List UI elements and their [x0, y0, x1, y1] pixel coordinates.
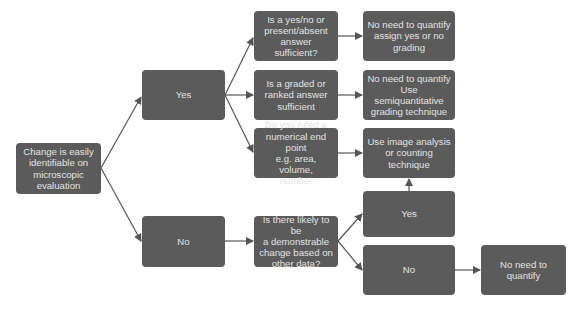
edge-yes-to-q-numerical	[225, 95, 253, 152]
edge-q-likely-to-yes	[338, 214, 362, 241]
node-likely-no-label: No	[403, 264, 415, 275]
node-no-label: No	[177, 236, 189, 247]
node-result-image-analysis-label: Use image analysis or counting technique	[367, 136, 450, 170]
node-question-numerical: Do you need a numerical end point e.g. a…	[254, 128, 338, 178]
node-result-no-quantify: No need to quantify	[481, 245, 566, 295]
edge-start-to-yes	[101, 97, 141, 168]
node-no: No	[142, 216, 225, 267]
node-question-likely-change: Is there likely to be a demonstrable cha…	[254, 216, 338, 267]
node-result-semiquantitative-label: No need to quantify Use semiquantitative…	[367, 73, 451, 118]
flowchart: Change is easily identifiable on microsc…	[0, 0, 577, 311]
node-question-likely-change-label: Is there likely to be a demonstrable cha…	[258, 214, 334, 270]
node-likely-no: No	[363, 245, 455, 295]
node-question-yes-no: Is a yes/no or present/absent answer suf…	[254, 11, 338, 61]
node-start: Change is easily identifiable on microsc…	[16, 143, 101, 194]
edge-q-likely-to-no	[338, 241, 362, 270]
node-question-graded: Is a graded or ranked answer sufficient	[254, 70, 338, 120]
node-result-yes-no-grading-label: No need to quantify assign yes or no gra…	[367, 19, 450, 53]
edge-start-to-no	[101, 168, 141, 241]
node-result-no-quantify-label: No need to quantify	[500, 259, 547, 281]
edge-yes-to-q-yesno	[225, 38, 253, 95]
node-question-numerical-label: Do you need a numerical end point e.g. a…	[258, 119, 334, 186]
node-yes: Yes	[142, 70, 225, 120]
node-likely-yes: Yes	[363, 191, 455, 237]
node-question-yes-no-label: Is a yes/no or present/absent answer suf…	[258, 14, 334, 59]
node-result-yes-no-grading: No need to quantify assign yes or no gra…	[363, 11, 455, 61]
node-result-semiquantitative: No need to quantify Use semiquantitative…	[363, 70, 455, 120]
node-question-graded-label: Is a graded or ranked answer sufficient	[265, 78, 328, 112]
node-result-image-analysis: Use image analysis or counting technique	[363, 128, 455, 178]
node-yes-label: Yes	[176, 89, 192, 100]
node-likely-yes-label: Yes	[401, 208, 417, 219]
node-start-label: Change is easily identifiable on microsc…	[23, 146, 93, 191]
